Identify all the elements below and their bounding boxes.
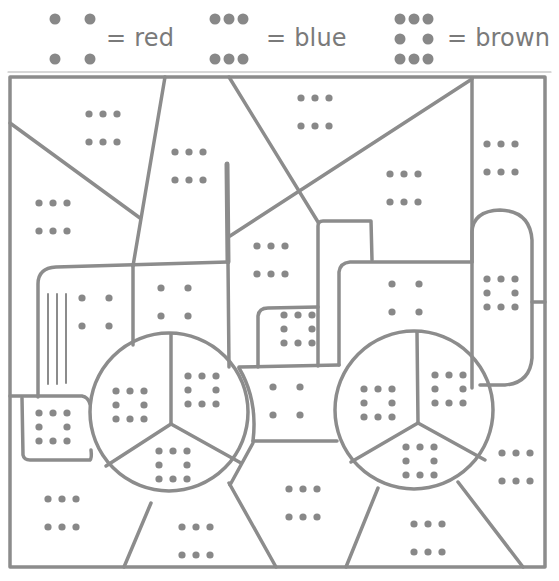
dot-marker bbox=[155, 447, 162, 454]
dot-marker bbox=[431, 371, 438, 378]
region-sky-top-mid[interactable] bbox=[171, 148, 206, 183]
dot-marker bbox=[415, 308, 422, 315]
dot-marker bbox=[49, 437, 56, 444]
dot-marker bbox=[402, 457, 409, 464]
dot-marker bbox=[430, 471, 437, 478]
dot-marker bbox=[178, 551, 185, 558]
region-tractor-seat-block[interactable] bbox=[280, 311, 315, 346]
dot-marker bbox=[410, 548, 417, 555]
dot-marker bbox=[512, 477, 519, 484]
dot-marker bbox=[483, 289, 490, 296]
region-tractor-hood-left[interactable] bbox=[78, 294, 112, 329]
dot-marker bbox=[299, 485, 306, 492]
dot-marker bbox=[85, 138, 92, 145]
dot-marker bbox=[402, 471, 409, 478]
dot-marker bbox=[497, 303, 504, 310]
dot-marker bbox=[49, 409, 56, 416]
dot-marker bbox=[438, 548, 445, 555]
dot-marker bbox=[280, 311, 287, 318]
region-sky-right-strip[interactable] bbox=[483, 140, 518, 175]
region-ground-bottom-right[interactable] bbox=[498, 449, 533, 484]
dot-marker bbox=[35, 423, 42, 430]
region-ground-bottom-mid-left[interactable] bbox=[178, 523, 213, 558]
dot-marker bbox=[410, 520, 417, 527]
region-sky-behind-cab[interactable] bbox=[253, 242, 288, 277]
dot-marker bbox=[297, 94, 304, 101]
dot-marker bbox=[105, 322, 112, 329]
region-tractor-cab-body[interactable] bbox=[388, 280, 422, 315]
dot-marker bbox=[140, 415, 147, 422]
dot-marker bbox=[44, 495, 51, 502]
dot-marker bbox=[112, 401, 119, 408]
dot-marker bbox=[212, 386, 219, 393]
dot-marker bbox=[511, 275, 518, 282]
dot-marker bbox=[253, 270, 260, 277]
dot-marker bbox=[169, 447, 176, 454]
region-sky-top-left-upper[interactable] bbox=[85, 110, 120, 145]
dot-marker bbox=[431, 399, 438, 406]
dot-marker bbox=[360, 413, 367, 420]
dot-marker bbox=[280, 325, 287, 332]
dot-marker bbox=[325, 94, 332, 101]
dot-marker bbox=[386, 198, 393, 205]
dot-marker bbox=[483, 275, 490, 282]
dot-marker bbox=[58, 523, 65, 530]
dot-marker bbox=[199, 148, 206, 155]
dot-marker bbox=[113, 110, 120, 117]
number-dots-layer bbox=[35, 94, 533, 558]
dot-marker bbox=[184, 312, 191, 319]
dot-marker bbox=[498, 449, 505, 456]
dot-marker bbox=[498, 477, 505, 484]
dot-marker bbox=[35, 437, 42, 444]
dot-marker bbox=[126, 415, 133, 422]
region-sky-right-triangle[interactable] bbox=[386, 170, 421, 205]
dot-marker bbox=[85, 110, 92, 117]
dot-marker bbox=[445, 399, 452, 406]
dot-marker bbox=[511, 303, 518, 310]
dot-marker bbox=[360, 385, 367, 392]
dot-marker bbox=[206, 551, 213, 558]
dot-marker bbox=[113, 138, 120, 145]
region-left-wheel-hub-left[interactable] bbox=[112, 387, 147, 422]
dot-marker bbox=[313, 485, 320, 492]
dot-marker bbox=[296, 383, 303, 390]
region-tractor-bumper[interactable] bbox=[35, 409, 70, 444]
dot-marker bbox=[416, 443, 423, 450]
region-left-wheel-hub-right[interactable] bbox=[184, 372, 219, 407]
dot-marker bbox=[155, 461, 162, 468]
bumper-block bbox=[22, 398, 91, 460]
center-axle bbox=[239, 365, 339, 367]
region-ground-bottom-left[interactable] bbox=[44, 495, 79, 530]
dot-marker bbox=[206, 523, 213, 530]
dot-marker bbox=[157, 284, 164, 291]
tractor-coloring-drawing bbox=[0, 0, 559, 581]
region-right-wheel-hub-bottom[interactable] bbox=[402, 443, 437, 478]
region-tractor-axle-center[interactable] bbox=[269, 383, 303, 418]
dot-marker bbox=[99, 110, 106, 117]
region-sky-top-center[interactable] bbox=[297, 94, 332, 129]
region-right-wheel-hub-left[interactable] bbox=[360, 385, 395, 420]
right-wheel bbox=[335, 331, 493, 489]
dot-marker bbox=[72, 523, 79, 530]
dot-marker bbox=[431, 385, 438, 392]
dot-marker bbox=[497, 168, 504, 175]
region-right-wheel-hub-right[interactable] bbox=[431, 371, 466, 406]
dot-marker bbox=[63, 227, 70, 234]
dot-marker bbox=[269, 383, 276, 390]
region-tractor-hood-mid[interactable] bbox=[157, 284, 191, 319]
region-sky-top-left-lower[interactable] bbox=[35, 199, 70, 234]
region-ground-bottom-center[interactable] bbox=[285, 485, 320, 520]
region-tractor-fender[interactable] bbox=[483, 275, 518, 310]
region-left-wheel-hub-bottom[interactable] bbox=[155, 447, 190, 482]
dot-marker bbox=[459, 371, 466, 378]
dot-marker bbox=[63, 437, 70, 444]
dot-marker bbox=[483, 303, 490, 310]
dot-marker bbox=[438, 520, 445, 527]
dot-marker bbox=[388, 413, 395, 420]
dot-marker bbox=[424, 520, 431, 527]
dot-marker bbox=[285, 513, 292, 520]
dot-marker bbox=[483, 168, 490, 175]
region-ground-bottom-mid-right[interactable] bbox=[410, 520, 445, 555]
dot-marker bbox=[308, 325, 315, 332]
dot-marker bbox=[78, 294, 85, 301]
